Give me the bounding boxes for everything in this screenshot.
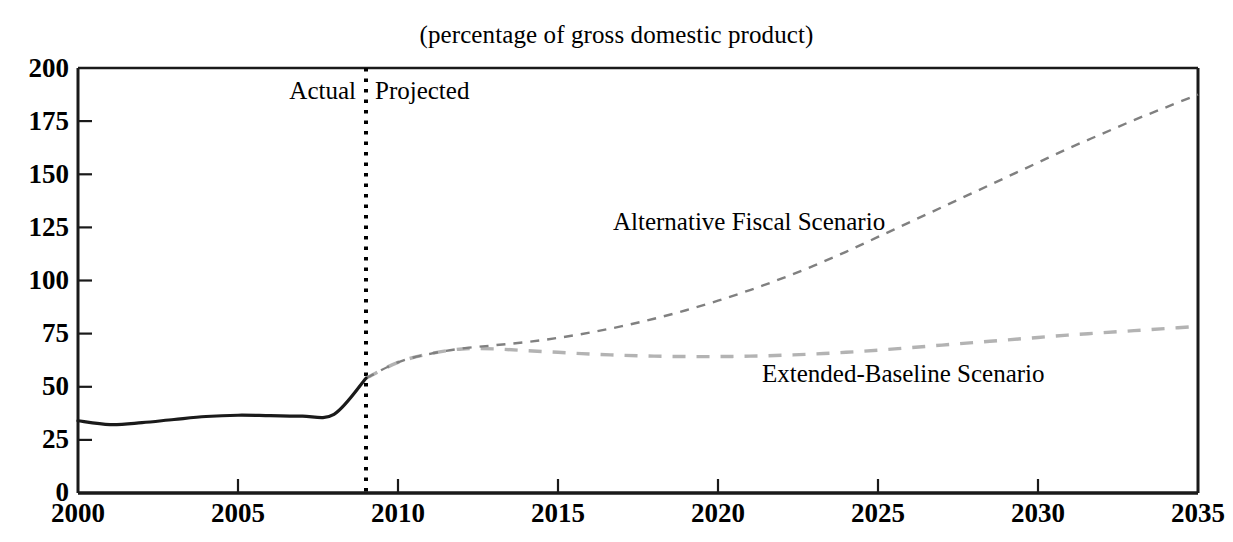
chart-figure: (percentage of gross domestic product) (0, 0, 1233, 542)
alternative-fiscal-scenario-label: Alternative Fiscal Scenario (613, 208, 885, 235)
axis-frame (78, 68, 1198, 493)
x-axis-label-2010: 2010 (338, 500, 458, 527)
y-axis-label-150: 150 (3, 161, 69, 188)
plot-area (0, 0, 1233, 542)
x-axis-label-2000: 2000 (18, 500, 138, 527)
y-axis-label-75: 75 (3, 320, 69, 347)
x-axis-label-2030: 2030 (978, 500, 1098, 527)
x-axis-label-2035: 2035 (1138, 500, 1233, 527)
y-axis-label-125: 125 (3, 214, 69, 241)
y-axis-label-175: 175 (3, 108, 69, 135)
x-axis-label-2025: 2025 (818, 500, 938, 527)
projected-label: Projected (375, 77, 469, 104)
y-axis-label-50: 50 (3, 373, 69, 400)
extended-baseline-scenario-label: Extended-Baseline Scenario (762, 360, 1045, 387)
x-axis-label-2015: 2015 (498, 500, 618, 527)
y-axis-label-200: 200 (3, 55, 69, 82)
x-axis-ticks (238, 479, 1038, 493)
y-axis-ticks (78, 121, 92, 440)
series-alternative-fiscal-scenario-path (366, 95, 1198, 379)
x-axis-label-2005: 2005 (178, 500, 298, 527)
actual-label: Actual (289, 77, 356, 104)
x-axis-label-2020: 2020 (658, 500, 778, 527)
y-axis-label-100: 100 (3, 267, 69, 294)
y-axis-label-25: 25 (3, 426, 69, 453)
series-actual (78, 378, 366, 424)
